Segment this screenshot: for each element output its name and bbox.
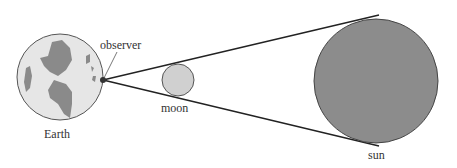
earth-label: Earth [44,127,70,142]
sun [314,19,438,143]
moon [162,64,194,96]
moon-label: moon [161,101,188,116]
diagram-graphic [0,0,457,168]
observer-pointer [103,52,117,80]
observer-label: observer [100,38,141,53]
observer-dot [100,77,106,83]
sun-label: sun [368,148,385,163]
diagram: observer Earth moon sun [0,0,457,168]
earth [17,34,103,120]
